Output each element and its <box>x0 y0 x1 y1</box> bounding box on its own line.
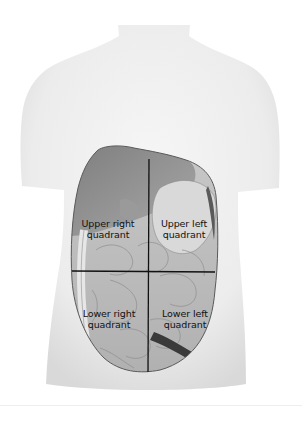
label-upper-left-quadrant: Upper left quadrant <box>155 218 213 240</box>
label-lower-right-quadrant: Lower right quadrant <box>74 308 144 330</box>
bottom-divider <box>0 405 302 406</box>
label-lower-left-quadrant: Lower left quadrant <box>156 308 214 330</box>
abdominal-quadrants-figure: Upper right quadrant Upper left quadrant… <box>0 0 302 425</box>
label-upper-right-quadrant: Upper right quadrant <box>75 218 141 240</box>
torso-illustration <box>0 0 302 425</box>
